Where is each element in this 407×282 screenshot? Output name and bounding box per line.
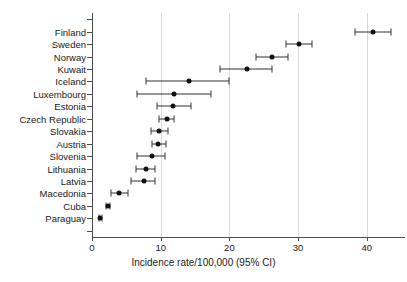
category-label-lithuania: Lithuania <box>47 163 86 174</box>
y-tick <box>87 32 92 33</box>
category-label-norway: Norway <box>54 51 86 62</box>
ci-cap-high <box>155 178 156 185</box>
y-tick <box>87 169 92 170</box>
x-axis-title: Incidence rate/100,000 (95% CI) <box>0 257 407 269</box>
category-label-slovakia: Slovakia <box>50 126 86 137</box>
y-tick <box>87 119 92 120</box>
y-tick <box>87 69 92 70</box>
data-point <box>116 191 121 196</box>
ci-cap-high <box>127 190 128 197</box>
ci-cap-high <box>168 128 169 135</box>
data-point <box>186 79 191 84</box>
y-tick <box>87 131 92 132</box>
category-label-macedonia: Macedonia <box>40 188 86 199</box>
x-tick-label-40: 40 <box>362 242 373 253</box>
ci-cap-high <box>166 140 167 147</box>
data-point <box>370 29 375 34</box>
x-tick-label-20: 20 <box>224 242 235 253</box>
category-label-slovenia: Slovenia <box>50 151 86 162</box>
data-point <box>144 166 149 171</box>
ci-cap-low <box>146 78 147 85</box>
x-tick-0 <box>92 237 93 241</box>
category-label-austria: Austria <box>56 138 86 149</box>
category-label-sweden: Sweden <box>52 39 86 50</box>
category-label-kuwait: Kuwait <box>57 64 86 75</box>
ci-cap-low <box>136 90 137 97</box>
data-point <box>171 104 176 109</box>
category-label-czech-republic: Czech Republic <box>19 113 86 124</box>
category-label-cuba: Cuba <box>63 200 86 211</box>
y-tick <box>87 156 92 157</box>
x-tick-label-0: 0 <box>89 242 94 253</box>
category-label-paraguay: Paraguay <box>45 213 86 224</box>
category-label-estonia: Estonia <box>54 101 86 112</box>
ci-cap-high <box>210 90 211 97</box>
ci-cap-low <box>255 53 256 60</box>
y-tick <box>87 218 92 219</box>
ci-cap-high <box>390 28 391 35</box>
x-tick-40 <box>367 237 368 241</box>
data-point <box>141 179 146 184</box>
y-tick <box>87 81 92 82</box>
ci-cap-low <box>156 103 157 110</box>
y-tick <box>87 44 92 45</box>
forest-plot-chart: FinlandSwedenNorwayKuwaitIcelandLuxembou… <box>0 0 407 282</box>
category-label-latvia: Latvia <box>61 176 86 187</box>
y-tick <box>87 144 92 145</box>
y-tick <box>87 193 92 194</box>
ci-cap-low <box>131 178 132 185</box>
y-tick <box>87 231 92 232</box>
gridline-10 <box>161 13 162 237</box>
y-tick <box>87 181 92 182</box>
gridline-40 <box>367 13 368 237</box>
ci-cap-high <box>229 78 230 85</box>
y-tick <box>87 94 92 95</box>
ci-cap-low <box>135 165 136 172</box>
data-point <box>172 91 177 96</box>
ci-cap-low <box>355 28 356 35</box>
y-axis-line <box>92 13 93 237</box>
y-tick <box>87 206 92 207</box>
ci-cap-high <box>174 115 175 122</box>
y-tick <box>87 19 92 20</box>
data-point <box>155 141 160 146</box>
category-label-iceland: Iceland <box>55 76 86 87</box>
x-tick-label-30: 30 <box>293 242 304 253</box>
ci-cap-high <box>155 165 156 172</box>
gridline-20 <box>229 13 230 237</box>
ci-cap-low <box>159 115 160 122</box>
category-label-luxembourg: Luxembourg <box>33 88 86 99</box>
ci-cap-low <box>286 41 287 48</box>
ci-cap-high <box>288 53 289 60</box>
data-point <box>157 129 162 134</box>
x-tick-10 <box>161 237 162 241</box>
ci-cap-low <box>151 140 152 147</box>
x-tick-20 <box>229 237 230 241</box>
x-tick-label-10: 10 <box>155 242 166 253</box>
ci-cap-high <box>271 66 272 73</box>
ci-cap-high <box>311 41 312 48</box>
ci-cap-low <box>151 128 152 135</box>
ci-cap-high <box>164 153 165 160</box>
data-point <box>244 67 249 72</box>
ci-cap-high <box>190 103 191 110</box>
category-label-finland: Finland <box>55 26 86 37</box>
ci-cap-low <box>219 66 220 73</box>
ci-cap-low <box>111 190 112 197</box>
x-tick-30 <box>298 237 299 241</box>
ci-cap-low <box>136 153 137 160</box>
y-tick <box>87 106 92 107</box>
data-point <box>98 216 103 221</box>
x-axis-line <box>92 237 405 238</box>
data-point <box>149 154 154 159</box>
data-point <box>105 203 110 208</box>
data-point <box>164 116 169 121</box>
y-tick <box>87 57 92 58</box>
data-point <box>269 54 274 59</box>
data-point <box>297 42 302 47</box>
